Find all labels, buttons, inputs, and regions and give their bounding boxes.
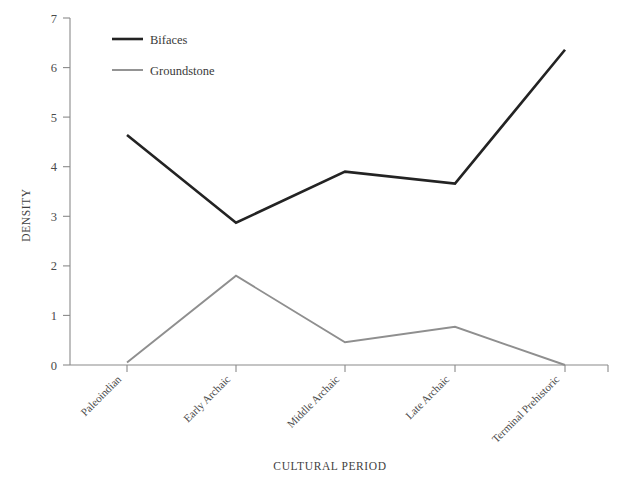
- x-category-label: Paleoindian: [78, 373, 124, 419]
- line-chart-canvas: 7 6 5 4 3 2 1 0 DENSITY CULTURAL PERIOD …: [0, 0, 637, 498]
- y-tick-label: 2: [51, 259, 57, 273]
- y-tick-label: 5: [51, 111, 57, 125]
- x-category-labels: Paleoindian Early Archaic Middle Archaic…: [78, 373, 561, 445]
- legend-label-bifaces: Bifaces: [150, 33, 188, 47]
- chart-figure: 7 6 5 4 3 2 1 0 DENSITY CULTURAL PERIOD …: [0, 0, 637, 498]
- y-tick-marks: [63, 18, 70, 365]
- y-tick-label: 7: [51, 12, 57, 26]
- x-tick-marks: [127, 365, 608, 372]
- y-axis-title: DENSITY: [20, 188, 32, 241]
- chart-legend: Bifaces Groundstone: [112, 33, 215, 78]
- series-line-groundstone: [127, 276, 565, 365]
- y-tick-label: 6: [51, 61, 57, 75]
- y-tick-label: 4: [51, 160, 58, 174]
- legend-label-groundstone: Groundstone: [150, 64, 215, 78]
- y-tick-labels: 7 6 5 4 3 2 1 0: [51, 12, 58, 373]
- x-category-label: Middle Archaic: [284, 373, 341, 430]
- y-tick-label: 3: [51, 210, 57, 224]
- y-tick-label: 0: [51, 359, 57, 373]
- x-category-label: Early Archaic: [181, 373, 233, 425]
- y-tick-label: 1: [51, 309, 57, 323]
- x-category-label: Late Archaic: [403, 373, 452, 422]
- x-axis-title: CULTURAL PERIOD: [273, 460, 386, 472]
- x-category-label: Terminal Prehistoric: [489, 373, 561, 445]
